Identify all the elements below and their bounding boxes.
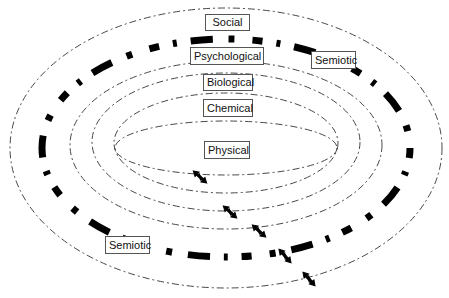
- label-social: Social: [205, 14, 250, 31]
- label-semiotic-upper: Semiotic: [311, 51, 356, 69]
- arrow-physical-chemical-icon: [191, 169, 208, 186]
- arrow-psychological-semiotic-icon: [277, 247, 294, 264]
- label-physical: Physical: [204, 141, 250, 159]
- label-semiotic-lower: Semiotic: [105, 236, 150, 254]
- label-psychological: Psychological: [190, 47, 264, 65]
- arrow-chemical-biological-icon: [221, 204, 238, 221]
- arrow-semiotic-social-icon: [301, 270, 318, 287]
- label-biological: Biological: [203, 74, 253, 91]
- label-chemical: Chemical: [203, 99, 253, 117]
- arrow-biological-psychological-icon: [250, 223, 267, 240]
